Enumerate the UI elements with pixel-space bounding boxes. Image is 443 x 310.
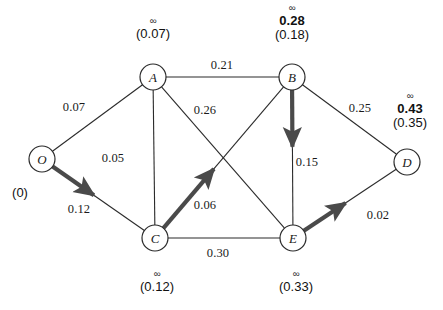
distance-label-B: ∞0.28(0.18) xyxy=(275,3,309,43)
distance-label-D: ∞0.43(0.35) xyxy=(393,91,427,131)
permanent-distance-B: 0.28 xyxy=(275,14,309,29)
edge-weight-A-E: 0.26 xyxy=(194,103,216,118)
permanent-distance-D: 0.43 xyxy=(393,102,427,117)
distance-label-O: (0) xyxy=(12,185,28,200)
distance-label-E: ∞(0.33) xyxy=(279,269,313,294)
node-label-B: B xyxy=(288,70,296,85)
edge-O-A xyxy=(52,85,142,152)
edge-weight-A-B: 0.21 xyxy=(211,58,233,73)
temporary-distance-C: (0.12) xyxy=(140,280,174,295)
node-label-D: D xyxy=(401,155,412,170)
edge-weight-B-E: 0.15 xyxy=(296,155,318,170)
edge-weight-E-D: 0.02 xyxy=(367,208,389,223)
edge-B-D xyxy=(302,85,396,155)
edge-A-C xyxy=(153,90,155,225)
distance-label-C: ∞(0.12) xyxy=(140,269,174,294)
edge-weight-A-C: 0.05 xyxy=(102,151,124,166)
distance-label-A: ∞(0.07) xyxy=(136,16,170,41)
temporary-distance-D: (0.35) xyxy=(393,116,427,131)
node-label-C: C xyxy=(151,231,160,246)
graph-canvas: OABCDE xyxy=(0,0,443,310)
highlight-arrow-E-D xyxy=(304,203,346,231)
node-label-O: O xyxy=(37,152,47,167)
node-label-A: A xyxy=(148,70,157,85)
temporary-distance-B: (0.18) xyxy=(275,28,309,43)
node-layer: OABCDE xyxy=(29,64,420,251)
temporary-distance-A: (0.07) xyxy=(136,27,170,42)
edge-weight-O-C: 0.12 xyxy=(68,202,90,217)
highlight-arrow-O-C xyxy=(53,166,94,195)
edge-weight-O-A: 0.07 xyxy=(63,100,85,115)
temporary-distance-E: (0.33) xyxy=(279,280,313,295)
node-label-E: E xyxy=(288,231,297,246)
network-diagram: OABCDE 0.070.120.050.210.260.060.300.150… xyxy=(0,0,443,310)
edge-weight-C-B: 0.06 xyxy=(194,198,216,213)
edge-weight-C-E: 0.30 xyxy=(207,246,229,261)
edge-weight-B-D: 0.25 xyxy=(349,101,371,116)
